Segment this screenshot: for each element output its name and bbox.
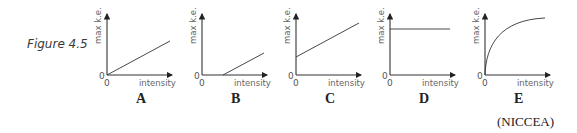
graphs-panel: max k.e. 0 0 intensity A max k.e. 0 0 in…	[0, 0, 577, 133]
x-axis-label: intensity	[234, 78, 271, 88]
source-attribution: (NICCEA)	[497, 114, 554, 130]
graph-letter: C	[325, 91, 335, 106]
x-axis-label: intensity	[139, 78, 176, 88]
graph-letter: E	[514, 91, 523, 106]
x-axis-label: intensity	[328, 78, 365, 88]
graph-line	[296, 23, 359, 57]
graph-e: max k.e. 0 0 intensity E	[471, 7, 554, 106]
graph-line	[223, 53, 264, 75]
x-axis-label: intensity	[422, 78, 459, 88]
x-origin-label: 0	[199, 78, 205, 88]
graph-curve	[485, 18, 545, 75]
x-axis-label: intensity	[517, 78, 554, 88]
y-axis-label: max k.e.	[188, 7, 198, 44]
graph-letter: D	[419, 91, 429, 106]
y-axis-label: max k.e.	[376, 7, 386, 44]
y-axis-label: max k.e.	[282, 7, 292, 44]
x-origin-label: 0	[104, 78, 110, 88]
graph-c: max k.e. 0 0 intensity C	[282, 7, 365, 106]
x-origin-label: 0	[387, 78, 393, 88]
graph-letter: A	[136, 91, 147, 106]
y-axis-label: max k.e.	[93, 7, 103, 44]
y-axis-label: max k.e.	[471, 7, 481, 44]
graph-line	[107, 41, 170, 75]
graph-d: max k.e. 0 0 intensity D	[376, 7, 459, 106]
x-origin-label: 0	[293, 78, 299, 88]
graph-b: max k.e. 0 0 intensity B	[188, 7, 271, 106]
graph-letter: B	[231, 91, 240, 106]
graph-a: max k.e. 0 0 intensity A	[93, 7, 176, 106]
x-origin-label: 0	[482, 78, 488, 88]
